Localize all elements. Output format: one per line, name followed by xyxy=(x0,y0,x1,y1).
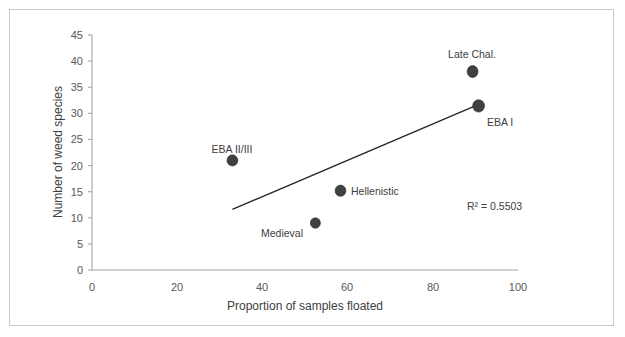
y-axis-ticks xyxy=(88,35,92,270)
y-tick-label-25: 25 xyxy=(71,133,83,145)
y-tick-label-10: 10 xyxy=(71,212,83,224)
point-label-eba-i: EBA I xyxy=(487,116,513,128)
point-label-hellenistic: Hellenistic xyxy=(351,185,399,197)
y-tick-label-35: 35 xyxy=(71,81,83,93)
y-tick-label-40: 40 xyxy=(71,55,83,67)
x-tick-label-80: 80 xyxy=(427,281,439,293)
point-label-late-chal: Late Chal. xyxy=(448,48,496,60)
x-tick-label-20: 20 xyxy=(171,281,183,293)
x-tick-label-40: 40 xyxy=(256,281,268,293)
x-tick-label-0: 0 xyxy=(89,281,95,293)
r-squared-annotation: R² = 0.5503 xyxy=(467,200,522,212)
chart-page: 0 5 10 15 20 25 30 35 40 45 0 20 40 60 8… xyxy=(0,0,625,337)
y-tick-label-5: 5 xyxy=(77,238,83,250)
y-tick-label-45: 45 xyxy=(71,29,83,41)
point-label-medieval: Medieval xyxy=(261,227,303,239)
y-tick-label-15: 15 xyxy=(71,186,83,198)
datapoint-medieval[interactable] xyxy=(310,218,320,228)
datapoint-eba-ii-iii[interactable] xyxy=(227,155,238,166)
y-tick-label-20: 20 xyxy=(71,160,83,172)
datapoint-eba-i[interactable] xyxy=(473,100,485,112)
y-tick-label-30: 30 xyxy=(71,107,83,119)
y-tick-label-0: 0 xyxy=(77,264,83,276)
x-tick-label-100: 100 xyxy=(509,281,527,293)
scatter-plot: 0 5 10 15 20 25 30 35 40 45 0 20 40 60 8… xyxy=(0,0,625,337)
datapoint-hellenistic[interactable] xyxy=(335,185,346,196)
x-axis-title: Proportion of samples floated xyxy=(227,299,383,313)
x-tick-label-60: 60 xyxy=(341,281,353,293)
y-axis-title: Number of weed species xyxy=(51,86,65,218)
point-label-eba-ii-iii: EBA II/III xyxy=(212,143,253,155)
datapoint-late-chal[interactable] xyxy=(467,66,478,78)
